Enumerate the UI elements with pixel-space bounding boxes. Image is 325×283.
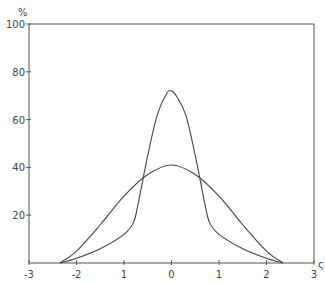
x-tick-label: 2	[263, 269, 269, 280]
x-tick-label: -3	[24, 269, 34, 280]
x-axis-label: ς	[318, 259, 324, 270]
broad-curve	[60, 165, 283, 263]
series-group	[60, 90, 283, 263]
x-tick-label: -2	[72, 269, 82, 280]
y-tick-label: 80	[12, 67, 25, 78]
axes	[29, 24, 314, 263]
x-tick-label: 3	[311, 269, 317, 280]
y-axis-label: %	[18, 7, 28, 18]
y-tick-label: 60	[12, 115, 25, 126]
x-tick-label: 1	[121, 269, 127, 280]
x-tick-label: 1	[216, 269, 222, 280]
y-tick-label: 40	[12, 162, 25, 173]
x-tick-label: 0	[168, 269, 174, 280]
y-ticks: 20406080100	[6, 19, 31, 221]
narrow-curve	[60, 90, 283, 263]
y-tick-label: 20	[12, 210, 25, 221]
y-tick-label: 100	[6, 19, 25, 30]
chart: 20406080100 -3-210123 % ς	[0, 0, 325, 283]
